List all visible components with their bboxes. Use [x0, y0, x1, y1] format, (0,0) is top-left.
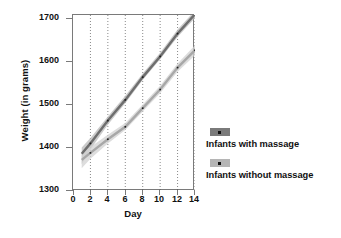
x-tick-label-6: 6 [116, 194, 134, 204]
square-marker-icon [210, 128, 230, 136]
plot-svg [73, 15, 195, 191]
y-tick-label-1600: 1600 [19, 56, 59, 65]
legend-item-with-massage[interactable]: Infants with massage [206, 128, 338, 149]
series-markers [90, 15, 195, 154]
y-tick-label-1400: 1400 [19, 142, 59, 151]
legend-label-with-massage: Infants with massage [206, 139, 338, 149]
y-tick-1300 [66, 190, 73, 191]
x-tick-label-12: 12 [168, 194, 186, 204]
y-tick-label-1500: 1500 [19, 99, 59, 108]
series-lines [82, 15, 195, 160]
x-tick-label-10: 10 [150, 194, 168, 204]
chart-legend: Infants with massage Infants without mas… [206, 128, 338, 190]
x-tick-label-4: 4 [98, 194, 116, 204]
y-tick-label-1300: 1300 [19, 185, 59, 194]
chart-figure: Weight (in grams) 1700 1600 1500 1400 13… [0, 0, 341, 238]
x-tick-label-2: 2 [81, 194, 99, 204]
x-axis-title: Day [72, 208, 194, 219]
plot-area [72, 14, 194, 190]
x-tick-label-14: 14 [185, 194, 203, 204]
legend-label-without-massage: Infants without massage [206, 170, 338, 180]
x-tick-label-8: 8 [133, 194, 151, 204]
legend-item-without-massage[interactable]: Infants without massage [206, 159, 338, 180]
y-tick-label-1700: 1700 [19, 13, 59, 22]
gridlines [90, 15, 195, 191]
x-tick-label-0: 0 [64, 194, 82, 204]
square-marker-icon [210, 159, 230, 167]
